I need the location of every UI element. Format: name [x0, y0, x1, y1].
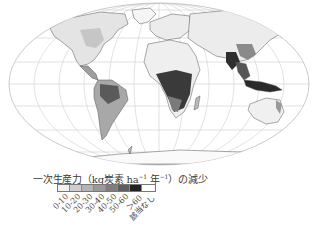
- madagascar: [194, 96, 200, 110]
- new-zealand: [292, 124, 300, 134]
- legend-swatch-40-50: [106, 185, 118, 191]
- legend-title-sup2: −1: [160, 173, 168, 180]
- legend-swatch-50-60: [118, 185, 130, 191]
- land: [40, 8, 300, 164]
- legend-swatch-20-30: [82, 185, 94, 191]
- europe: [150, 14, 190, 40]
- southeast-asia: [236, 62, 250, 80]
- legend-swatch-30-40: [94, 185, 106, 191]
- legend-title-sup1: −1: [138, 173, 146, 180]
- central-america: [80, 66, 98, 80]
- legend-color-bar: [57, 184, 156, 192]
- legend-swatch-gt60: [130, 185, 142, 191]
- legend-title-end: ）の減少: [168, 174, 207, 185]
- legend-swatch-0-10: [58, 185, 70, 191]
- asia: [188, 10, 290, 62]
- indonesia: [244, 80, 282, 92]
- legend-swatch-10-20: [70, 185, 82, 191]
- world-map: [0, 0, 312, 170]
- legend-swatch-na: [142, 185, 155, 191]
